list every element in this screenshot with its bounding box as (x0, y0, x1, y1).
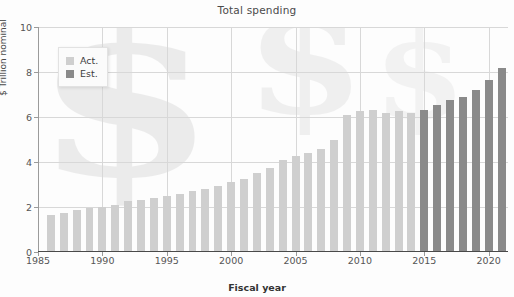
x-tick-label: 1985 (26, 255, 50, 266)
bar-2003 (266, 168, 274, 252)
bar-2009 (343, 115, 351, 252)
bar-2007 (317, 149, 325, 253)
y-tick-label: 6 (8, 112, 32, 123)
x-tick-label: 2015 (412, 255, 436, 266)
bar-2021 (498, 68, 506, 253)
bar-2020 (485, 80, 493, 252)
y-tick-label: 8 (8, 67, 32, 78)
bar-2014 (407, 113, 415, 253)
bar-1986 (47, 215, 55, 252)
x-tick-label: 2005 (283, 255, 307, 266)
bar-2011 (369, 110, 377, 252)
chart-legend: Act. Est. (58, 47, 108, 87)
x-tick-label: 1995 (155, 255, 179, 266)
bar-2000 (227, 182, 235, 252)
bar-2015 (420, 110, 428, 252)
legend-swatch-est-icon (66, 70, 74, 78)
bar-2019 (472, 90, 480, 252)
bar-2016 (433, 105, 441, 252)
chart-container: $ $ $ Total spending 0246810 19851990199… (0, 0, 514, 297)
x-tick-label: 2000 (219, 255, 243, 266)
legend-label-act: Act. (80, 55, 98, 66)
bar-1991 (111, 205, 119, 252)
bar-1997 (189, 191, 197, 252)
bar-2006 (304, 153, 312, 252)
bar-2010 (356, 111, 364, 252)
bar-2013 (395, 111, 403, 252)
bar-2004 (279, 160, 287, 252)
bar-2018 (459, 97, 467, 252)
bar-2005 (292, 156, 300, 252)
plot-area: 0246810 19851990199520002005201020152020 (38, 27, 508, 252)
bar-1995 (163, 196, 171, 252)
bar-1994 (150, 198, 158, 252)
bar-2002 (253, 173, 261, 252)
y-axis-line (38, 27, 39, 252)
legend-item-est[interactable]: Est. (66, 68, 98, 79)
x-tick-label: 2020 (477, 255, 501, 266)
y-tick-label: 10 (8, 22, 32, 33)
bar-1999 (214, 186, 222, 252)
bar-2012 (382, 113, 390, 253)
bar-2001 (240, 179, 248, 252)
bar-2008 (330, 140, 338, 253)
legend-item-act[interactable]: Act. (66, 55, 98, 66)
bar-2017 (446, 100, 454, 252)
x-tick-label: 2010 (348, 255, 372, 266)
y-axis-label: $ Trillion nominal (0, 19, 8, 96)
bar-1989 (86, 208, 94, 252)
bar-1998 (201, 189, 209, 252)
y-tick-label: 4 (8, 157, 32, 168)
bar-1990 (98, 207, 106, 252)
chart-title: Total spending (0, 4, 514, 16)
x-axis-line (38, 251, 508, 253)
bar-1992 (124, 201, 132, 252)
legend-swatch-act-icon (66, 57, 74, 65)
legend-label-est: Est. (80, 68, 98, 79)
bar-1993 (137, 200, 145, 252)
bar-1987 (60, 213, 68, 252)
bar-1988 (73, 210, 81, 252)
bar-1996 (176, 194, 184, 253)
bar-series-group (38, 27, 508, 252)
y-tick-label: 2 (8, 202, 32, 213)
x-axis-label: Fiscal year (0, 282, 514, 293)
x-tick-label: 1990 (90, 255, 114, 266)
